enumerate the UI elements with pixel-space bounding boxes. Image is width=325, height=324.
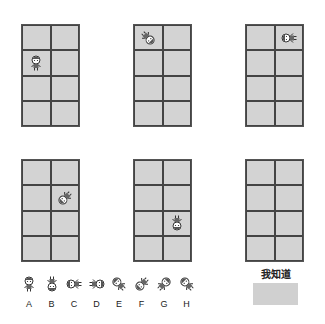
figure-icon <box>58 190 72 206</box>
figure-icon <box>282 30 296 46</box>
figure-icon <box>90 276 104 292</box>
grid-cell <box>246 211 275 236</box>
grid-cell <box>22 76 51 101</box>
grid-cell <box>134 211 163 236</box>
option-e[interactable]: E <box>111 276 127 309</box>
grid-cell <box>163 50 192 75</box>
figure-icon <box>170 215 184 231</box>
grid-cell <box>275 25 304 50</box>
grid-5 <box>133 159 192 262</box>
i-know-label: 我知道 <box>253 266 299 281</box>
grid-cell <box>163 25 192 50</box>
grid-cell <box>134 25 163 50</box>
option-label: F <box>134 299 150 309</box>
grid-cell <box>246 185 275 210</box>
figure-icon <box>141 30 155 46</box>
option-label: G <box>156 299 172 309</box>
option-label: E <box>111 299 127 309</box>
grid-cell <box>51 101 80 126</box>
grid-cell <box>275 185 304 210</box>
grid-cell <box>51 236 80 261</box>
grid-cell <box>275 76 304 101</box>
option-a[interactable]: A <box>21 276 37 309</box>
grid-cell <box>134 101 163 126</box>
grid-cell <box>22 236 51 261</box>
grid-cell <box>22 185 51 210</box>
figure-icon <box>45 276 59 292</box>
grid-cell <box>163 101 192 126</box>
grid-cell <box>51 160 80 185</box>
grid-cell <box>246 50 275 75</box>
grid-cell <box>246 160 275 185</box>
figure-icon <box>67 276 81 292</box>
grid-cell <box>134 236 163 261</box>
figure-icon <box>29 55 43 71</box>
grid-cell <box>246 236 275 261</box>
grid-cell <box>246 101 275 126</box>
grid-cell <box>22 25 51 50</box>
option-label: A <box>21 299 37 309</box>
grid-cell <box>246 76 275 101</box>
grid-cell <box>134 160 163 185</box>
grid-cell <box>163 236 192 261</box>
grid-2 <box>133 24 192 127</box>
grid-cell <box>163 185 192 210</box>
figure-icon <box>135 276 149 292</box>
grid-cell <box>51 76 80 101</box>
option-c[interactable]: C <box>66 276 82 309</box>
grid-cell <box>275 50 304 75</box>
grid-cell <box>134 185 163 210</box>
option-f[interactable]: F <box>134 276 150 309</box>
grid-4 <box>21 159 80 262</box>
grid-cell <box>246 25 275 50</box>
grid-cell <box>134 76 163 101</box>
option-label: B <box>44 299 60 309</box>
grid-6 <box>245 159 304 262</box>
grid-cell <box>275 101 304 126</box>
option-b[interactable]: B <box>44 276 60 309</box>
grid-cell <box>22 101 51 126</box>
grid-cell <box>51 50 80 75</box>
option-h[interactable]: H <box>179 276 195 309</box>
grid-cell <box>275 160 304 185</box>
grid-cell <box>22 50 51 75</box>
grid-cell <box>134 50 163 75</box>
grid-cell <box>275 211 304 236</box>
grid-cell <box>51 211 80 236</box>
option-label: D <box>89 299 105 309</box>
grid-cell <box>275 236 304 261</box>
grid-cell <box>163 211 192 236</box>
i-know-button[interactable] <box>253 283 298 305</box>
grid-cell <box>22 211 51 236</box>
figure-icon <box>157 276 171 292</box>
grid-1 <box>21 24 80 127</box>
option-d[interactable]: D <box>89 276 105 309</box>
figure-icon <box>180 276 194 292</box>
figure-icon <box>22 276 36 292</box>
grid-cell <box>163 76 192 101</box>
grid-cell <box>51 25 80 50</box>
grid-3 <box>245 24 304 127</box>
grid-cell <box>163 160 192 185</box>
option-label: H <box>179 299 195 309</box>
option-g[interactable]: G <box>156 276 172 309</box>
grid-cell <box>22 160 51 185</box>
option-label: C <box>66 299 82 309</box>
grid-cell <box>51 185 80 210</box>
figure-icon <box>112 276 126 292</box>
